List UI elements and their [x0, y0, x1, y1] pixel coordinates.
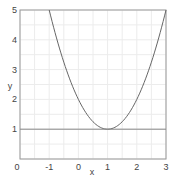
x-tick-label: -1 — [45, 162, 53, 172]
x-tick-label: 2 — [134, 162, 139, 172]
y-tick-label: 3 — [12, 65, 17, 75]
y-tick-label: 2 — [12, 94, 17, 104]
y-tick-labels: 12345 — [12, 5, 17, 134]
x-tick-label: 0 — [76, 162, 81, 172]
x-tick-label: 0 — [14, 162, 19, 172]
y-tick-label: 5 — [12, 5, 17, 15]
chart: 0-10123 12345 x y — [0, 0, 175, 178]
y-axis-label: y — [8, 81, 13, 91]
x-axis-label: x — [90, 167, 95, 177]
x-tick-label: 3 — [163, 162, 168, 172]
y-tick-label: 4 — [12, 35, 17, 45]
y-tick-label: 1 — [12, 124, 17, 134]
x-tick-label: 1 — [105, 162, 110, 172]
grid — [20, 10, 166, 159]
